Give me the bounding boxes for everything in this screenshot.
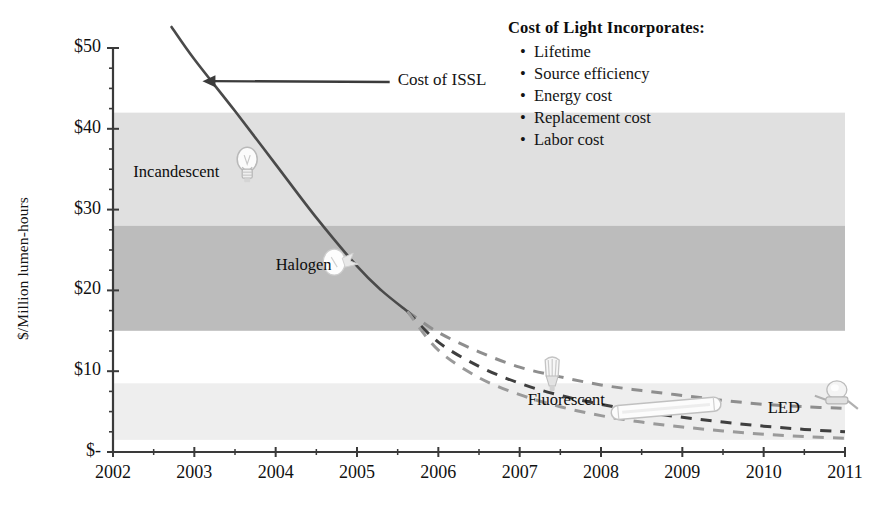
band-label-halogen: Halogen bbox=[276, 255, 332, 275]
legend-bullet-icon: • bbox=[520, 41, 526, 63]
x-axis-tick-label: 2009 bbox=[652, 462, 712, 483]
band-label-fluorescent: Fluorescent bbox=[528, 390, 605, 410]
legend-item: •Source efficiency bbox=[520, 63, 848, 85]
y-axis-tick-label: $40 bbox=[74, 117, 101, 138]
y-axis-tick-label: $10 bbox=[74, 359, 101, 380]
annotation-label-cost-of-issl: Cost of ISSL bbox=[398, 70, 487, 90]
x-axis-tick-label: 2005 bbox=[327, 462, 387, 483]
legend-bullet-icon: • bbox=[520, 85, 526, 107]
legend-bullet-icon: • bbox=[520, 129, 526, 151]
legend-item: •Lifetime bbox=[520, 41, 848, 63]
x-axis-tick-label: 2006 bbox=[408, 462, 468, 483]
annotation-arrow-line bbox=[211, 81, 389, 82]
legend-title: Cost of Light Incorporates: bbox=[508, 18, 848, 38]
legend-bullet-icon: • bbox=[520, 63, 526, 85]
x-axis-tick-label: 2010 bbox=[734, 462, 794, 483]
legend-item: •Replacement cost bbox=[520, 107, 848, 129]
x-axis-tick-label: 2003 bbox=[164, 462, 224, 483]
led-label: LED bbox=[768, 398, 800, 418]
legend-bullet-icon: • bbox=[520, 107, 526, 129]
band-label-incandescent: Incandescent bbox=[133, 162, 219, 182]
legend-item-label: Labor cost bbox=[534, 130, 604, 149]
legend-panel: Cost of Light Incorporates: •Lifetime•So… bbox=[508, 18, 848, 151]
x-axis-tick-label: 2007 bbox=[490, 462, 550, 483]
y-axis-title: $/Million lumen-hours bbox=[14, 197, 32, 340]
cost-of-light-chart: $/Million lumen-hours $-$10$20$30$40$502… bbox=[0, 0, 871, 514]
legend-item-list: •Lifetime•Source efficiency•Energy cost•… bbox=[508, 41, 848, 151]
x-axis-tick-label: 2002 bbox=[83, 462, 143, 483]
band-regions bbox=[114, 113, 845, 440]
y-axis-tick-label: $30 bbox=[74, 198, 101, 219]
annotation-arrows bbox=[202, 75, 389, 87]
legend-item-label: Lifetime bbox=[534, 42, 591, 61]
legend-item: •Labor cost bbox=[520, 129, 848, 151]
y-axis-tick-label: $20 bbox=[74, 278, 101, 299]
legend-item-label: Replacement cost bbox=[534, 108, 651, 127]
y-axis-tick-label: $50 bbox=[74, 36, 101, 57]
x-axis-tick-label: 2011 bbox=[815, 462, 871, 483]
band-region-halogen bbox=[114, 226, 845, 331]
legend-item-label: Source efficiency bbox=[534, 64, 650, 83]
x-axis-tick-label: 2004 bbox=[246, 462, 306, 483]
legend-item-label: Energy cost bbox=[534, 86, 612, 105]
y-axis-tick-label: $- bbox=[86, 440, 101, 461]
x-axis-tick-label: 2008 bbox=[571, 462, 631, 483]
legend-item: •Energy cost bbox=[520, 85, 848, 107]
